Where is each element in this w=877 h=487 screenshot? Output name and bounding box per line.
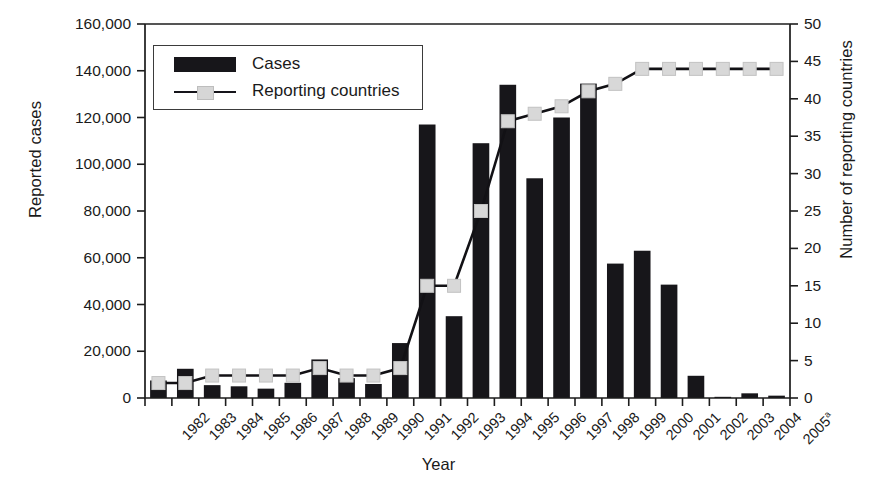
marker-1993	[448, 279, 461, 292]
y-tick-right-35: 35	[804, 127, 874, 145]
bar-1999	[607, 264, 624, 398]
y-tick-right-10: 10	[804, 314, 874, 332]
y-tick-right-5: 5	[804, 352, 874, 370]
y-tick-left-140000: 140,000	[11, 62, 131, 80]
y-tick-left-60000: 60,000	[11, 249, 131, 267]
chart-figure: Reported cases Number of reporting count…	[0, 0, 877, 487]
marker-2004	[743, 62, 756, 75]
y-tick-right-25: 25	[804, 202, 874, 220]
bar-1997	[553, 118, 570, 399]
legend-label-cases: Cases	[252, 54, 300, 74]
legend-bar-swatch-icon	[174, 57, 236, 72]
bar-2001	[661, 285, 678, 398]
marker-1999	[609, 77, 622, 90]
marker-2005	[770, 62, 783, 75]
y-tick-right-30: 30	[804, 165, 874, 183]
marker-1996	[528, 107, 541, 120]
legend-item-cases: Cases	[154, 51, 422, 77]
y-tick-left-80000: 80,000	[11, 202, 131, 220]
y-tick-right-40: 40	[804, 90, 874, 108]
marker-1982	[152, 377, 165, 390]
y-tick-left-160000: 160,000	[11, 15, 131, 33]
bar-1995	[499, 85, 516, 398]
x-axis-label: Year	[0, 455, 877, 474]
bar-1998	[580, 84, 597, 398]
marker-1986	[259, 369, 272, 382]
bar-1992	[419, 125, 436, 398]
marker-2000	[636, 62, 649, 75]
marker-1984	[206, 369, 219, 382]
y-tick-right-20: 20	[804, 239, 874, 257]
marker-1983	[179, 377, 192, 390]
marker-1991	[394, 362, 407, 375]
bar-2000	[634, 251, 651, 398]
marker-1994	[474, 205, 487, 218]
y-tick-right-45: 45	[804, 52, 874, 70]
marker-1995	[501, 115, 514, 128]
y-tick-left-100000: 100,000	[11, 155, 131, 173]
marker-2003	[716, 62, 729, 75]
marker-1989	[340, 369, 353, 382]
line-reporting-countries	[158, 69, 776, 383]
bar-1987	[284, 383, 301, 398]
bar-1984	[204, 385, 221, 398]
bar-1996	[526, 178, 543, 398]
marker-1987	[286, 369, 299, 382]
marker-1988	[313, 362, 326, 375]
y-tick-right-0: 0	[804, 389, 874, 407]
bar-1986	[258, 389, 275, 398]
legend-label-reporting-countries: Reporting countries	[252, 81, 399, 101]
marker-2001	[663, 62, 676, 75]
marker-1990	[367, 369, 380, 382]
y-tick-right-50: 50	[804, 15, 874, 33]
bar-1994	[473, 143, 490, 398]
bar-2002	[688, 376, 705, 398]
marker-1998	[582, 85, 595, 98]
marker-1985	[233, 369, 246, 382]
bar-1985	[231, 386, 248, 398]
y-tick-left-0: 0	[11, 389, 131, 407]
y-tick-left-40000: 40,000	[11, 296, 131, 314]
marker-1992	[421, 279, 434, 292]
legend-item-reporting-countries: Reporting countries	[154, 78, 422, 104]
bar-1993	[446, 316, 463, 398]
y-tick-left-20000: 20,000	[11, 342, 131, 360]
legend-line-marker-swatch-icon	[174, 84, 236, 99]
y-tick-right-15: 15	[804, 277, 874, 295]
chart-legend: Cases Reporting countries	[153, 45, 423, 110]
y-tick-left-120000: 120,000	[11, 109, 131, 127]
marker-1997	[555, 100, 568, 113]
bar-1990	[365, 384, 382, 398]
marker-2002	[689, 62, 702, 75]
